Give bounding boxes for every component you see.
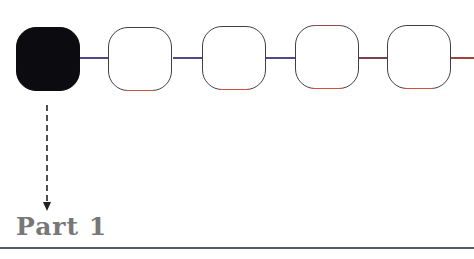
- node-edge-accent: [219, 89, 249, 90]
- connector-2-3: [173, 57, 202, 59]
- dashed-arrow-down-icon: [40, 103, 54, 215]
- progress-diagram: Part 1: [0, 0, 474, 259]
- part-label: Part 1: [16, 212, 107, 241]
- step-node-1-active[interactable]: [16, 27, 80, 91]
- connector-3-4: [266, 57, 295, 59]
- node-edge-accent: [312, 25, 342, 26]
- connector-5-out: [451, 57, 474, 59]
- divider-line: [0, 247, 474, 249]
- step-node-2[interactable]: [108, 27, 172, 91]
- step-node-3[interactable]: [202, 26, 266, 90]
- connector-4-5: [359, 57, 387, 59]
- connector-1-2: [80, 57, 108, 59]
- node-edge-accent: [404, 88, 434, 89]
- step-node-4[interactable]: [295, 25, 359, 89]
- step-node-5[interactable]: [387, 25, 451, 89]
- node-edge-accent: [312, 88, 342, 89]
- node-edge-accent: [125, 90, 155, 91]
